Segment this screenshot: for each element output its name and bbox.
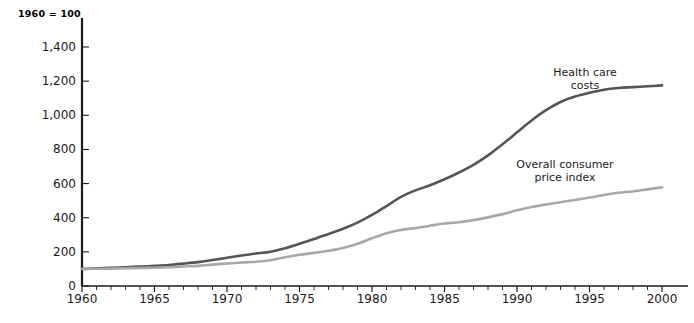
series-label-health-care-costs: Health carecosts <box>553 66 616 93</box>
x-axis-tick-label: 2000 <box>647 292 678 306</box>
x-axis-tick-label: 1970 <box>212 292 243 306</box>
axis-lines <box>82 18 688 286</box>
chart-container: 1960 = 100 02004006008001,0001,2001,400 … <box>0 0 694 323</box>
series-label-line-2: costs <box>553 79 616 92</box>
series-label-line-1: Overall consumer <box>516 158 613 171</box>
x-axis-tick-label: 1995 <box>574 292 605 306</box>
series-label-line-1: Health care <box>553 66 616 79</box>
x-axis-tick-label: 1975 <box>284 292 315 306</box>
series-label-line-2: price index <box>516 171 613 184</box>
x-axis-tick-label: 1980 <box>357 292 388 306</box>
x-axis-tick-label: 1990 <box>502 292 533 306</box>
x-axis-tick-label: 1985 <box>429 292 460 306</box>
series-label-overall-consumer-price-index: Overall consumerprice index <box>516 158 613 185</box>
x-axis-tick-label: 1965 <box>139 292 170 306</box>
x-axis-tick-label: 1960 <box>67 292 98 306</box>
series-line-overall-consumer-price-index <box>82 187 662 269</box>
